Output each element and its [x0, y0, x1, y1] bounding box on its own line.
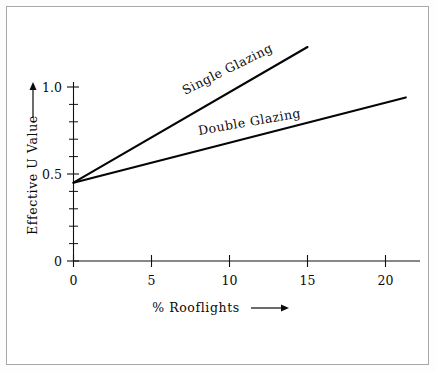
series-line-double-glazing: [74, 97, 406, 182]
x-tick-label-10: 10: [222, 273, 238, 288]
x-axis-title: % Rooflights: [152, 300, 289, 315]
y-axis-title-arrow-head: [30, 82, 37, 90]
y-tick-label-0: 0: [54, 254, 62, 269]
y-tick-label-0point5: 0.5: [42, 167, 62, 182]
y-axis-title: Effective U Value: [25, 82, 40, 235]
x-tick-label-0: 0: [70, 273, 78, 288]
x-axis-title-arrow-head: [281, 305, 289, 312]
x-tick-label-15: 15: [300, 273, 316, 288]
series-label-double-glazing: Double Glazing: [197, 105, 302, 138]
line-chart: 1.0 0.5 0 0 5 10 15 20 Single Glazing Do…: [0, 0, 436, 372]
series-label-single-glazing: Single Glazing: [180, 40, 275, 98]
x-tick-label-5: 5: [148, 273, 156, 288]
x-axis-title-text: % Rooflights: [152, 300, 240, 315]
y-tick-label-1: 1.0: [42, 80, 62, 95]
figure-canvas: 1.0 0.5 0 0 5 10 15 20 Single Glazing Do…: [0, 0, 436, 372]
y-axis-title-text: Effective U Value: [25, 115, 40, 235]
x-tick-label-20: 20: [378, 273, 394, 288]
